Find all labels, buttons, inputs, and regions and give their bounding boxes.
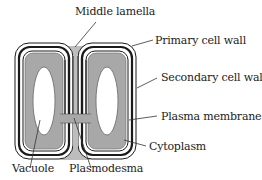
label-secondary-cell-wall: Secondary cell wall [161,72,262,84]
label-plasmodesma: Plasmodesma [69,163,143,175]
label-vacuole: Vacuole [12,163,54,175]
cell-wall-drawing [0,0,262,180]
label-cytoplasm: Cytoplasm [149,141,206,153]
label-middle-lamella: Middle lamella [75,6,155,18]
left-vacuole [33,67,55,135]
cell-wall-diagram: Middle lamella Primary cell wall Seconda… [0,0,262,180]
left-cell [15,43,73,159]
label-plasma-membrane: Plasma membrane [161,111,261,123]
label-primary-cell-wall: Primary cell wall [155,35,246,47]
right-cell [78,43,136,159]
right-vacuole [96,67,118,135]
